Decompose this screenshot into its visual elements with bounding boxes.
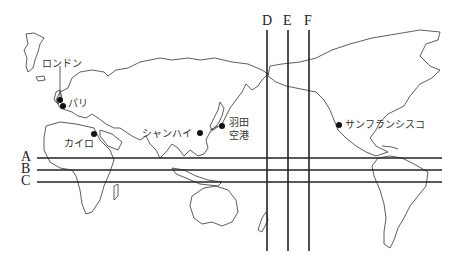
arabian-peninsula: [100, 130, 122, 150]
iceland: [36, 76, 45, 81]
madagascar: [114, 184, 118, 200]
cairo-marker: [91, 131, 97, 137]
line-label-e: E: [283, 14, 292, 28]
north-america: [268, 30, 440, 156]
greenland-east-outline: [24, 33, 44, 72]
line-label-c: C: [21, 174, 30, 188]
sanfrancisco-label: サンフランシスコ: [345, 119, 425, 131]
london-label: ロンドン: [42, 58, 82, 70]
haneda-label-line2: 空港: [229, 130, 249, 142]
australia: [190, 186, 238, 226]
paris-label: パリ: [68, 98, 88, 110]
haneda-marker: [219, 123, 225, 129]
cairo-label: カイロ: [64, 138, 94, 150]
paris-marker: [60, 103, 66, 109]
shanghai-marker: [197, 130, 203, 136]
line-label-d: D: [262, 14, 272, 28]
haneda-label-line1: 羽田: [229, 117, 249, 129]
caribbean: [382, 146, 398, 149]
line-label-f: F: [304, 14, 312, 28]
africa: [44, 122, 114, 214]
sanfrancisco-marker: [336, 122, 342, 128]
shanghai-label: シャンハイ: [142, 128, 192, 140]
